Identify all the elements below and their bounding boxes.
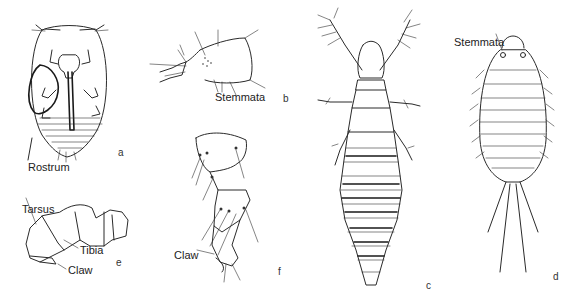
panel-c-drawing [318, 8, 420, 285]
label-claw-f: Claw [174, 250, 198, 261]
panel-letter-e: e [116, 258, 122, 268]
panel-d-drawing [470, 36, 554, 272]
panel-letter-a: a [118, 148, 124, 158]
label-rostrum: Rostrum [28, 162, 70, 173]
panel-letter-b: b [283, 94, 289, 104]
label-claw-e: Claw [68, 265, 92, 276]
panel-letter-d: d [553, 272, 559, 282]
label-stemmata-b: Stemmata [215, 92, 265, 103]
panel-b-drawing [150, 30, 265, 95]
panel-letter-f: f [278, 267, 281, 277]
label-tibia: Tibia [80, 245, 103, 256]
panel-letter-c: c [426, 281, 431, 291]
leader-lines [197, 34, 502, 254]
panel-a-drawing [28, 25, 108, 162]
panel-f-drawing [192, 133, 258, 282]
label-stemmata-d: Stemmata [454, 37, 504, 48]
label-tarsus: Tarsus [22, 204, 54, 215]
